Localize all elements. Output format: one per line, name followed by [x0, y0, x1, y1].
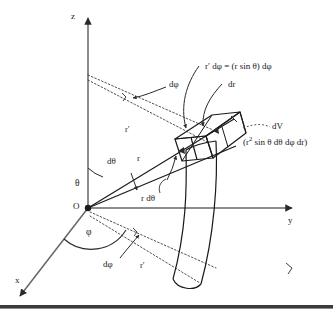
leader-dv	[243, 125, 270, 129]
theta-angle-arc	[88, 168, 103, 177]
d-theta-label: dθ	[107, 157, 116, 166]
r-prime-upper-label: r′	[125, 125, 130, 134]
axis-label-x: x	[15, 276, 20, 285]
projection-lines-upper	[88, 75, 213, 143]
phi-angle-arc	[64, 230, 126, 249]
bottom-divider-rule-secondary	[0, 308, 333, 309]
axis-x	[20, 208, 88, 296]
dr-label: dr	[228, 80, 236, 89]
d-phi-upper-label: dφ	[169, 80, 179, 89]
leader-r-prime-dphi	[184, 66, 199, 128]
axis-label-y: y	[288, 216, 293, 225]
diagram-canvas	[0, 0, 333, 315]
theta-label: θ	[75, 179, 80, 189]
d-phi-lower-label: dφ	[103, 260, 113, 269]
r-dtheta-label: r dθ	[141, 194, 155, 203]
corner-tick-lower-right	[286, 263, 292, 274]
r-prime-dphi-label: r′ dφ = (r sin θ) dφ	[205, 62, 272, 71]
leader-d-phi-lower	[120, 235, 139, 258]
origin-label: O	[73, 202, 80, 211]
dv-label: dV	[272, 122, 283, 131]
dv-expression: (r2 sin θ dθ dφ dr)	[243, 136, 307, 147]
projection-lines-lower	[90, 212, 216, 283]
r-prime-lower-label: r′	[140, 261, 145, 270]
phi-label: φ	[86, 228, 91, 238]
axis-label-z: z	[71, 12, 75, 21]
spherical-volume-element-figure: z y x O θ φ dθ r r dθ dφ dφ r′ r′ r′ dφ …	[0, 0, 333, 315]
dv-expression-post: sin θ dθ dφ dr)	[252, 137, 307, 147]
leader-d-phi-upper	[133, 87, 166, 98]
r-ray-label: r	[137, 154, 140, 163]
